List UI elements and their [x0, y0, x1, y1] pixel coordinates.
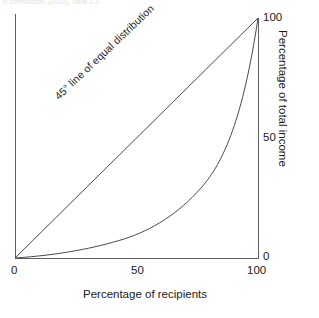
y-axis-title: Percentage of total income: [277, 30, 289, 167]
lorenz-curve-figure: ni commission. (2010), Table 2.3. 45° li…: [0, 0, 319, 318]
x-axis-tick-0: 0: [11, 264, 17, 276]
y-axis-tick-50: 50: [263, 131, 276, 143]
equality-line-45deg: [15, 18, 258, 258]
y-axis-tick-100: 100: [263, 11, 282, 23]
x-axis-tick-100: 100: [247, 264, 266, 276]
x-axis-title: Percentage of recipients: [0, 288, 290, 300]
plot-area: [0, 0, 319, 318]
y-axis-tick-0: 0: [263, 250, 269, 262]
x-axis-tick-50: 50: [131, 264, 144, 276]
